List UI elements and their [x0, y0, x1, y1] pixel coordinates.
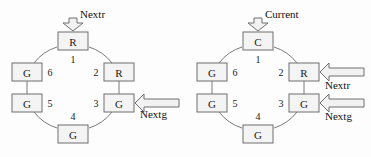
node-index-label-1: 1 — [256, 54, 261, 65]
ring-diagram-right: CurrentNextrNextgC1R2G3G4G5G6 — [185, 0, 371, 157]
ring-diagram-left: NextrNextgR1R2G3G4G5G6 — [0, 0, 186, 157]
node-state-letter-1: C — [254, 36, 261, 48]
arrow-label-nextg: Nextg — [140, 108, 167, 120]
node-index-label-2: 2 — [94, 67, 99, 78]
arrow-label-nextr: Nextr — [325, 79, 350, 91]
ring-node-1[interactable]: C1 — [243, 32, 273, 65]
ring-arc-2 — [274, 112, 297, 128]
node-state-letter-5: G — [208, 98, 216, 110]
node-state-letter-1: R — [69, 36, 77, 48]
node-state-letter-5: G — [23, 98, 31, 110]
ring-node-3[interactable]: G3 — [94, 94, 135, 112]
node-state-letter-6: G — [208, 67, 216, 79]
figure-root: NextrNextgR1R2G3G4G5G6 CurrentNextrNextg… — [0, 0, 371, 157]
node-index-label-3: 3 — [279, 98, 284, 109]
input-arrow-nextg: Nextg — [320, 94, 364, 122]
ring-node-1[interactable]: R1 — [58, 32, 88, 65]
node-index-label-4: 4 — [256, 111, 261, 122]
ring-diagram-left-canvas: NextrNextgR1R2G3G4G5G6 — [0, 0, 186, 157]
node-state-letter-4: G — [69, 129, 77, 141]
node-state-letter-3: G — [300, 98, 308, 110]
arrow-label-nextr: Nextr — [80, 8, 105, 20]
ring-arc-1 — [89, 47, 112, 63]
ring-arc-2 — [89, 112, 112, 128]
input-arrow-nextr: Nextr — [63, 8, 105, 31]
ring-node-5[interactable]: G5 — [197, 94, 238, 112]
ring-node-5[interactable]: G5 — [12, 94, 53, 112]
ring-arc-4 — [34, 47, 57, 63]
node-state-letter-6: G — [23, 67, 31, 79]
node-state-letter-4: G — [254, 129, 262, 141]
ring-node-4[interactable]: G4 — [243, 111, 273, 144]
ring-node-6[interactable]: G6 — [197, 63, 238, 81]
node-index-label-3: 3 — [94, 98, 99, 109]
node-state-letter-2: R — [115, 67, 123, 79]
node-index-label-1: 1 — [71, 54, 76, 65]
input-arrow-nextg: Nextg — [135, 94, 179, 120]
node-state-letter-3: G — [115, 98, 123, 110]
ring-node-2[interactable]: R2 — [279, 63, 320, 81]
ring-arc-3 — [34, 112, 57, 128]
ring-arc-1 — [274, 47, 297, 63]
ring-node-3[interactable]: G3 — [279, 94, 320, 112]
node-index-label-6: 6 — [48, 67, 53, 78]
arrow-label-nextg: Nextg — [325, 110, 352, 122]
arrow-label-current: Current — [265, 8, 299, 20]
node-index-label-5: 5 — [48, 98, 53, 109]
input-arrow-nextr: Nextr — [320, 63, 364, 91]
node-index-label-5: 5 — [233, 98, 238, 109]
input-arrow-current: Current — [248, 8, 299, 31]
node-state-letter-2: R — [300, 67, 308, 79]
node-index-label-4: 4 — [71, 111, 76, 122]
ring-arc-3 — [219, 112, 242, 128]
ring-node-2[interactable]: R2 — [94, 63, 135, 81]
node-index-label-2: 2 — [279, 67, 284, 78]
ring-diagram-right-canvas: CurrentNextrNextgC1R2G3G4G5G6 — [185, 0, 371, 157]
ring-node-6[interactable]: G6 — [12, 63, 53, 81]
ring-arc-4 — [219, 47, 242, 63]
node-index-label-6: 6 — [233, 67, 238, 78]
ring-node-4[interactable]: G4 — [58, 111, 88, 144]
